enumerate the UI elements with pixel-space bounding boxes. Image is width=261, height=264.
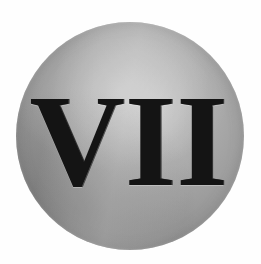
sphere-base-fill [16,22,244,250]
gray-sphere [16,22,244,250]
image-canvas: VII [0,0,261,264]
